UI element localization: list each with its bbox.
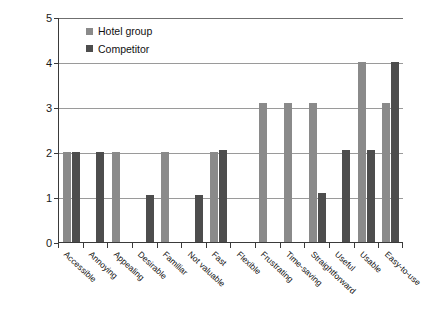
x-label-cell: Usable [354,248,379,315]
legend-swatch-icon [86,28,93,35]
bar-dark [367,150,375,242]
x-axis-category-label: Easy-to-use [383,250,422,287]
x-label-cell: Flexible [230,248,255,315]
bar-dark [146,195,154,242]
bar-dark [96,152,104,242]
x-label-cell: Straightforward [304,248,329,315]
bar-dark [72,152,80,242]
legend-item-hotel-group: Hotel group [86,26,152,37]
x-label-cell: Not valuable [181,248,206,315]
bar-group [256,18,281,242]
bar-light [382,103,390,243]
bar-group [329,18,354,242]
x-label-cell: Accessible [58,248,83,315]
bar-light [309,103,317,243]
y-axis-label-4: 4 [26,58,52,69]
legend-label: Hotel group [98,26,152,37]
bar-dark [391,62,399,242]
bar-group [157,18,182,242]
x-label-cell: Desirable [132,248,157,315]
x-label-cell: Appealing [107,248,132,315]
bar-dark [219,150,227,242]
bar-light [161,152,169,242]
bar-dark [318,193,326,243]
bar-light [284,103,292,243]
x-label-cell: Frustrating [255,248,280,315]
x-axis-labels: AccessibleAnnoyingAppealingDesirableFami… [58,248,403,315]
y-axis-label-3: 3 [26,103,52,114]
x-label-cell: Annoying [83,248,108,315]
x-axis-category-label: Fast [210,250,228,267]
y-axis-label-2: 2 [26,148,52,159]
x-label-cell: Familiar [157,248,182,315]
y-axis-label-1: 1 [26,193,52,204]
chart-legend: Hotel group Competitor [86,26,152,54]
bar-group [231,18,256,242]
bar-light [358,62,366,242]
x-label-cell: Easy-to-use [378,248,403,315]
bar-group [280,18,305,242]
bar-group [182,18,207,242]
legend-label: Competitor [98,44,149,55]
x-label-cell: Useful [329,248,354,315]
bar-light [259,103,267,243]
bar-group [305,18,330,242]
bar-dark [342,150,350,242]
x-label-cell: Time-saving [280,248,305,315]
bar-light [63,152,71,242]
legend-swatch-icon [86,45,93,52]
x-label-cell: Fast [206,248,231,315]
bar-light [210,152,218,242]
bar-group [354,18,379,242]
y-axis-label-5: 5 [26,13,52,24]
bar-light [112,152,120,242]
bar-group [59,18,84,242]
bar-dark [195,195,203,242]
bar-group [379,18,404,242]
bar-group [206,18,231,242]
y-axis-label-0: 0 [26,238,52,249]
legend-item-competitor: Competitor [86,44,152,55]
